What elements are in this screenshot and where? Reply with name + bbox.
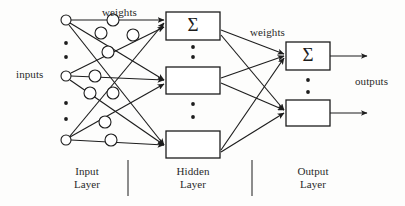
hidden-ellipsis-dot (191, 115, 195, 119)
connection-hid-2-to-out-2 (221, 83, 284, 110)
hidden-node-summation-symbol: Σ (166, 15, 220, 34)
connection-hid-3-to-out-2 (221, 113, 284, 152)
input-ellipsis-dot (64, 117, 68, 121)
input-node (61, 15, 71, 25)
input-ellipsis-dot (64, 41, 68, 45)
weight-node (95, 27, 107, 39)
output-ellipsis-dot (306, 90, 310, 94)
weight-node (84, 87, 96, 99)
layer-name-line-1: Hidden (163, 165, 223, 178)
weight-node (127, 29, 139, 41)
edge-group-hidden-to-output (221, 30, 284, 152)
hidden-ellipsis-dot (191, 102, 195, 106)
input-node-group (61, 15, 71, 145)
weight-node (102, 46, 114, 58)
output-layer-label: OutputLayer (283, 165, 343, 191)
connection-in-1-to-hid-2 (70, 23, 164, 80)
weight-node-group (84, 14, 139, 146)
neural-network-diagram: inputs outputs weights weights InputLaye… (0, 0, 405, 206)
output-node-summation-symbol: Σ (286, 45, 330, 64)
hidden-node-box (166, 67, 220, 94)
weight-node (105, 134, 117, 146)
weight-node (89, 70, 101, 82)
edge-group-input-to-hidden (69, 20, 164, 145)
hidden-ellipsis-dot (191, 55, 195, 59)
connection-in-1-to-hid-3 (69, 25, 164, 145)
connection-in-2-to-hid-1 (71, 27, 164, 73)
weights-hidden-output-label: weights (250, 26, 285, 38)
weight-node (99, 116, 111, 128)
connection-hid-2-to-out-1 (221, 56, 284, 78)
inputs-label: inputs (16, 68, 44, 80)
weights-input-hidden-label: weights (102, 6, 137, 18)
weight-node (107, 87, 119, 99)
layer-name-line-2: Layer (283, 178, 343, 191)
output-node-box (286, 100, 330, 126)
outputs-label: outputs (355, 75, 388, 87)
hidden-ellipsis-dot (191, 45, 195, 49)
layer-name-line-1: Input (58, 165, 116, 178)
input-layer-label: InputLayer (58, 165, 116, 191)
layer-name-line-2: Layer (58, 178, 116, 191)
output-ellipsis-dot (306, 78, 310, 82)
layer-name-line-1: Output (283, 165, 343, 178)
layer-name-line-2: Layer (163, 178, 223, 191)
input-node (61, 135, 71, 145)
input-node (61, 71, 71, 81)
hidden-layer-label: HiddenLayer (163, 165, 223, 191)
input-ellipsis-dot (64, 55, 68, 59)
hidden-node-box (166, 131, 220, 158)
input-ellipsis-dot (64, 101, 68, 105)
